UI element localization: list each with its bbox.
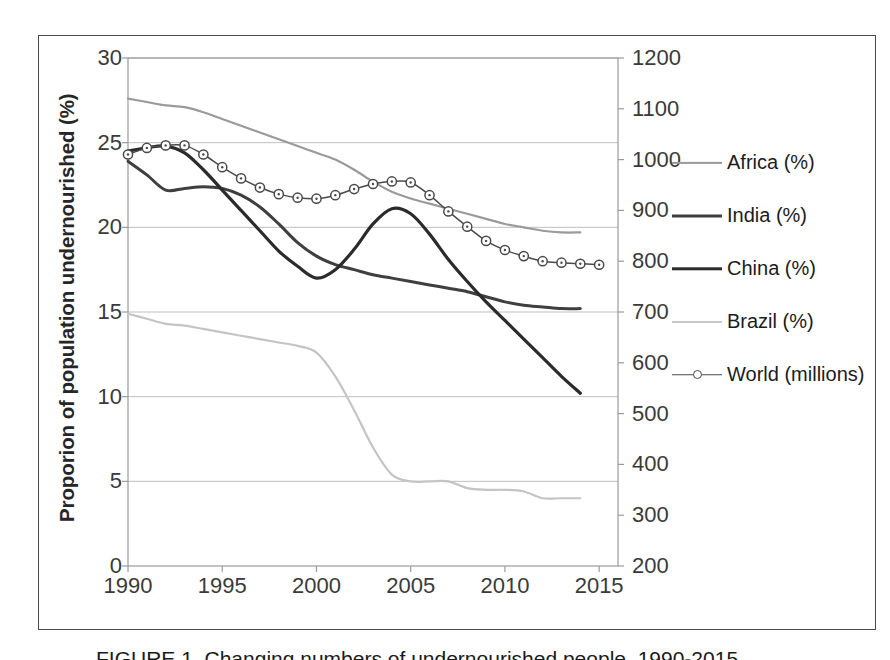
- legend-item-label: World (millions): [727, 363, 864, 386]
- legend-line-sample: [672, 321, 722, 323]
- y-axis-right-tick-label: 300: [632, 502, 712, 528]
- legend-item-africa[interactable]: Africa (%): [672, 136, 882, 189]
- legend-item-label: China (%): [727, 257, 816, 280]
- legend-item-china[interactable]: China (%): [672, 242, 882, 295]
- legend-item-label: Brazil (%): [727, 310, 814, 333]
- x-axis-tick-label: 2005: [366, 573, 456, 599]
- y-axis-right-tick-label: 1200: [632, 45, 712, 71]
- chart-legend: Africa (%)India (%)China (%)Brazil (%)Wo…: [672, 136, 882, 401]
- y-axis-left-tick-label: 30: [76, 45, 122, 71]
- x-axis-tick-label: 2000: [271, 573, 361, 599]
- figure-container: Proporion of population undernourished (…: [0, 0, 890, 660]
- y-axis-left-tick-label: 5: [76, 468, 122, 494]
- legend-item-india[interactable]: India (%): [672, 189, 882, 242]
- y-axis-left-tick-label: 15: [76, 299, 122, 325]
- legend-line-sample: [672, 161, 722, 163]
- y-axis-left-ticks: 302520151050: [76, 0, 122, 660]
- y-axis-left-tick-label: 20: [76, 214, 122, 240]
- legend-item-brazil[interactable]: Brazil (%): [672, 295, 882, 348]
- legend-line-sample: [672, 214, 722, 217]
- x-axis-tick-label: 2015: [554, 573, 644, 599]
- legend-swatch-icon: [672, 262, 722, 276]
- y-axis-left-tick-label: 10: [76, 384, 122, 410]
- legend-item-label: India (%): [727, 204, 807, 227]
- figure-caption: FIGURE 1. Changing numbers of undernouri…: [96, 647, 856, 660]
- legend-marker-circle-icon: [693, 370, 702, 379]
- y-axis-left-tick-label: 25: [76, 130, 122, 156]
- legend-swatch-icon: [672, 209, 722, 223]
- x-axis-tick-label: 2010: [460, 573, 550, 599]
- x-axis-tick-label: 1990: [83, 573, 173, 599]
- legend-swatch-icon: [672, 368, 722, 382]
- legend-swatch-icon: [672, 156, 722, 170]
- x-axis-tick-label: 1995: [177, 573, 267, 599]
- legend-swatch-icon: [672, 315, 722, 329]
- legend-item-world-millions[interactable]: World (millions): [672, 348, 882, 401]
- legend-line-sample: [672, 267, 722, 270]
- y-axis-right-tick-label: 400: [632, 451, 712, 477]
- legend-item-label: Africa (%): [727, 151, 815, 174]
- y-axis-right-tick-label: 500: [632, 401, 712, 427]
- y-axis-right-tick-label: 1100: [632, 96, 712, 122]
